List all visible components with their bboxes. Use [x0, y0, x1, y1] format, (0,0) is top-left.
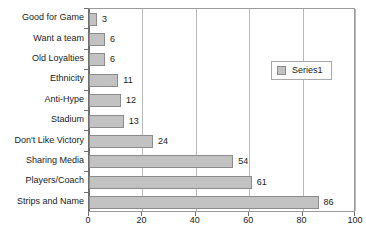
category-label: Ethnicity: [0, 74, 84, 83]
bar-row: 12: [89, 91, 354, 111]
category-label: Good for Game: [0, 13, 84, 22]
bar-value-label: 3: [102, 15, 107, 24]
legend-swatch-series1: [277, 66, 286, 75]
bar: [89, 196, 319, 209]
bar: [89, 74, 118, 87]
bar-value-label: 6: [110, 55, 115, 64]
x-axis-tick-label: 40: [190, 216, 200, 225]
bar: [89, 115, 124, 128]
bar-chart: Good for GameWant a teamOld LoyaltiesEth…: [0, 0, 366, 238]
category-label: Strips and Name: [0, 197, 84, 206]
bar-row: 13: [89, 111, 354, 131]
bar: [89, 13, 97, 26]
bar-row: 24: [89, 131, 354, 151]
bar-series: 36611121324546186: [89, 9, 354, 211]
bar-value-label: 54: [238, 157, 248, 166]
plot-area: 36611121324546186: [88, 8, 355, 212]
bar: [89, 53, 105, 66]
x-axis-tick-label: 20: [136, 216, 146, 225]
x-axis-labels: 020406080100: [88, 216, 355, 230]
gridline-100: [355, 9, 356, 211]
category-label: Old Loyalties: [0, 54, 84, 63]
bar-value-label: 86: [324, 198, 334, 207]
legend-label-series1: Series1: [292, 66, 323, 75]
bar-value-label: 12: [126, 96, 136, 105]
x-axis-tick-label: 100: [347, 216, 362, 225]
bar-value-label: 6: [110, 35, 115, 44]
bar-value-label: 11: [123, 76, 132, 85]
bar-value-label: 24: [158, 137, 168, 146]
bar-value-label: 13: [129, 117, 139, 126]
category-label: Want a team: [0, 34, 84, 43]
bar: [89, 94, 121, 107]
bar-row: 6: [89, 29, 354, 49]
category-label: Players/Coach: [0, 176, 84, 185]
bar: [89, 155, 233, 168]
x-axis-tick-label: 60: [243, 216, 253, 225]
category-label: Don't Like Victory: [0, 136, 84, 145]
bar-row: 54: [89, 152, 354, 172]
bar: [89, 176, 252, 189]
bar: [89, 33, 105, 46]
category-label: Anti-Hype: [0, 95, 84, 104]
chart-legend: Series1: [271, 61, 332, 80]
category-label: Stadium: [0, 115, 84, 124]
bar: [89, 135, 153, 148]
x-axis-tick-label: 0: [85, 216, 90, 225]
bar-value-label: 61: [257, 178, 267, 187]
x-axis-tick-label: 80: [297, 216, 307, 225]
bar-row: 3: [89, 9, 354, 29]
bar-row: 61: [89, 172, 354, 192]
category-axis: Good for GameWant a teamOld LoyaltiesEth…: [0, 8, 84, 212]
bar-row: 86: [89, 193, 354, 213]
category-label: Sharing Media: [0, 156, 84, 165]
